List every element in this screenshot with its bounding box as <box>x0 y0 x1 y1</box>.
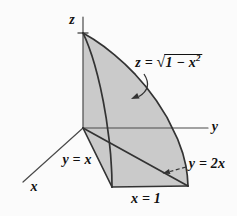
label-y-equals-2x: y = 2x <box>189 157 225 171</box>
surface-equation-lhs: z = <box>135 55 156 70</box>
z-axis-label: z <box>69 13 75 27</box>
sqrt-radicand-exponent: 2 <box>196 53 201 63</box>
x-axis-label: x <box>30 180 37 194</box>
surface-equation-label: z = √1 − x2 <box>135 54 202 70</box>
figure-3d-solid-region: z y x y = x y = 2x x = 1 z = √1 − x2 <box>0 0 237 216</box>
sqrt-radicand-text: 1 − x <box>166 55 196 70</box>
sqrt-radicand: 1 − x2 <box>165 54 203 70</box>
label-x-equals-1: x = 1 <box>131 192 161 206</box>
y-axis-label: y <box>212 120 218 134</box>
label-y-equals-x: y = x <box>62 153 91 167</box>
line-x-equals-1 <box>112 186 188 187</box>
